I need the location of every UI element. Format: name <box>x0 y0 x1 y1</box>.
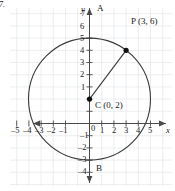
x-tick-label: 3 <box>124 126 128 135</box>
y-tick-label: 3 <box>80 58 84 67</box>
coordinate-plane-figure: 7. y x 0 –5 –4 –3 –2 –1 1 2 3 4 5 7 6 5 … <box>0 0 175 191</box>
y-tick-label: 7 <box>81 9 85 18</box>
y-tick-label: 6 <box>80 22 84 31</box>
x-tick-label: –3 <box>35 126 44 135</box>
x-tick-label: –4 <box>23 126 32 135</box>
point-c-marker <box>87 97 92 102</box>
x-tick-label: 1 <box>100 126 104 135</box>
x-tick-label: –2 <box>47 126 56 135</box>
y-tick-label: 2 <box>80 70 84 79</box>
y-tick-label: –3 <box>78 155 87 164</box>
y-tick-label: 4 <box>80 46 84 55</box>
point-label-b: B <box>96 164 102 173</box>
graph-canvas <box>0 0 175 191</box>
point-label-a: A <box>97 4 104 13</box>
x-tick-label: 4 <box>136 126 140 135</box>
y-tick-label: –2 <box>78 143 87 152</box>
x-tick-label: –1 <box>59 126 68 135</box>
problem-number: 7. <box>0 1 5 9</box>
y-tick-label: 5 <box>80 34 84 43</box>
x-tick-label: 2 <box>112 126 116 135</box>
point-label-p: P (3, 6) <box>131 17 157 26</box>
origin-label: 0 <box>91 124 95 133</box>
x-axis-label: x <box>166 126 170 135</box>
y-tick-label: –4 <box>78 167 87 176</box>
point-p-marker <box>124 48 129 53</box>
point-label-c: C (0, 2) <box>95 101 123 110</box>
x-tick-label: 5 <box>148 126 152 135</box>
y-tick-label: 1 <box>81 83 85 92</box>
y-tick-label: –1 <box>80 131 89 140</box>
x-tick-label: –5 <box>11 126 20 135</box>
